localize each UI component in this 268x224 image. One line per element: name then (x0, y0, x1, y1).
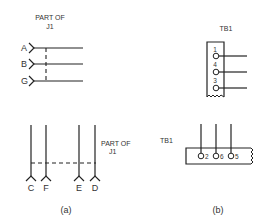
terminal-icon (213, 53, 219, 59)
female-contact-icon (26, 176, 36, 181)
part-of-label-line2: J1 (109, 148, 117, 155)
terminal-board-title: TB1 (220, 25, 233, 32)
caption-b: (b) (213, 205, 224, 215)
terminal-label-2: 2 (205, 153, 209, 160)
terminal-icon (213, 85, 219, 91)
pin-label-c: C (28, 183, 35, 193)
female-contact-icon (29, 59, 34, 69)
terminal-label-4: 4 (213, 61, 217, 68)
panel-a-bottom-connector: C F E D PART OF J1 (26, 125, 131, 193)
terminal-board-title: TB1 (160, 137, 173, 144)
female-contact-icon (90, 176, 100, 181)
pin-label-d: D (92, 183, 99, 193)
pin-b: B (21, 59, 83, 69)
pin-label-b: B (21, 59, 27, 69)
pin-g: G (21, 76, 83, 86)
part-of-label-line1: PART OF (101, 140, 131, 147)
pin-label-e: E (76, 183, 82, 193)
break-line (207, 95, 224, 97)
panel-a-top-connector: PART OF J1 A B G (21, 14, 83, 86)
connector-diagram: PART OF J1 A B G C (0, 0, 268, 224)
panel-b-bottom-terminal-board: TB1 2 6 5 (160, 124, 253, 164)
female-contact-icon (29, 43, 34, 53)
terminal-icon (198, 153, 204, 159)
female-contact-icon (29, 76, 34, 86)
pin-label-f: F (43, 183, 49, 193)
part-of-label-line2: J1 (46, 23, 54, 30)
terminal-label-6: 6 (220, 153, 224, 160)
pin-label-g: G (21, 76, 28, 86)
female-contact-icon (41, 176, 51, 181)
terminal-icon (213, 153, 219, 159)
terminal-label-1: 1 (213, 46, 217, 53)
caption-a: (a) (61, 205, 72, 215)
terminal-icon (228, 153, 234, 159)
break-line (251, 148, 253, 164)
panel-b-top-terminal-board: TB1 1 4 3 (207, 25, 247, 97)
terminal-label-3: 3 (213, 77, 217, 84)
pin-label-a: A (21, 43, 27, 53)
pin-a: A (21, 43, 83, 53)
terminal-label-5: 5 (235, 153, 239, 160)
terminal-icon (213, 69, 219, 75)
part-of-label-line1: PART OF (35, 14, 65, 21)
female-contact-icon (74, 176, 84, 181)
